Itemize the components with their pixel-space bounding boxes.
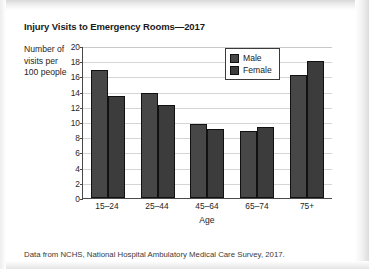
x-axis-tick-labels: 15–2425–4445–6465–7475+ <box>82 201 332 215</box>
bar-group-25–44 <box>133 46 183 198</box>
bar-female-75+ <box>307 61 324 198</box>
y-tickmark-4 <box>80 169 84 170</box>
y-tickmark-14 <box>80 93 84 94</box>
chart-title: Injury Visits to Emergency Rooms—2017 <box>24 21 205 32</box>
bar-male-15–24 <box>91 70 108 198</box>
legend-label-female: Female <box>243 65 272 75</box>
bar-groups <box>83 46 332 198</box>
bar-male-45–64 <box>190 124 207 198</box>
y-tickmark-10 <box>80 123 84 124</box>
y-tickmark-16 <box>80 77 84 78</box>
bar-group-75+ <box>282 46 332 198</box>
bar-female-45–64 <box>207 129 224 198</box>
legend-swatch-male-icon <box>230 54 239 63</box>
bar-female-65–74 <box>257 127 274 198</box>
legend-label-male: Male <box>243 53 262 63</box>
y-tickmark-12 <box>80 108 84 109</box>
x-axis-title: Age <box>82 215 332 225</box>
x-axis-label-75+: 75+ <box>282 201 332 215</box>
plot-area <box>82 47 332 199</box>
x-axis-label-45–64: 45–64 <box>182 201 232 215</box>
bar-group-15–24 <box>83 46 133 198</box>
y-tickmark-0 <box>80 199 84 200</box>
y-tickmark-2 <box>80 184 84 185</box>
x-axis-label-65–74: 65–74 <box>232 201 282 215</box>
legend-item-male: Male <box>230 52 272 64</box>
chart-legend: Male Female <box>225 48 280 80</box>
bar-male-25–44 <box>141 93 158 198</box>
scan-edge-shadow-left <box>0 0 6 269</box>
scan-edge-shadow-bottom <box>0 261 369 269</box>
bar-male-75+ <box>290 75 307 198</box>
legend-swatch-female-icon <box>230 66 239 75</box>
x-axis-label-25–44: 25–44 <box>132 201 182 215</box>
y-tickmark-6 <box>80 153 84 154</box>
source-note: Data from NCHS, National Hospital Ambula… <box>24 250 285 259</box>
bar-female-25–44 <box>158 105 175 198</box>
y-tickmark-18 <box>80 62 84 63</box>
scan-edge-shadow-top <box>0 0 369 10</box>
y-axis-tick-labels: 20181614121086420 <box>60 47 80 199</box>
y-tickmark-20 <box>80 47 84 48</box>
bar-female-15–24 <box>108 96 125 198</box>
x-axis-label-15–24: 15–24 <box>82 201 132 215</box>
chart-plot-wrapper: 20181614121086420 15–2425–4445–6465–7475… <box>60 47 332 217</box>
legend-item-female: Female <box>230 64 272 76</box>
bar-male-65–74 <box>240 131 257 198</box>
scan-edge-shadow-right <box>355 0 369 269</box>
y-tickmark-8 <box>80 138 84 139</box>
